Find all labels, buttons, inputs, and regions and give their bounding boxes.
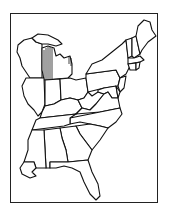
state-louisiana: [20, 162, 36, 178]
state-maine: [136, 20, 156, 54]
state-florida: [50, 160, 100, 200]
state-ohio: [60, 78, 88, 100]
state-michigan-lp: [42, 46, 72, 80]
eastern-us-map: [0, 0, 169, 212]
state-rhode-island: [136, 62, 140, 70]
state-connecticut: [128, 63, 136, 70]
state-illinois: [22, 78, 45, 116]
state-wisconsin: [17, 38, 42, 78]
